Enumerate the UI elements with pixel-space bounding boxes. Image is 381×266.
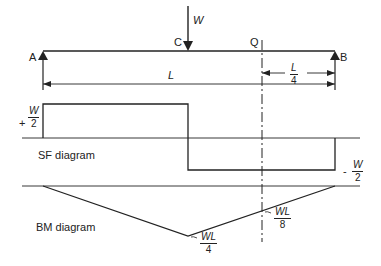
fraction-numerator: WL <box>200 232 217 244</box>
fraction-denominator: 4 <box>206 244 212 255</box>
sf-positive-sign: + <box>19 118 25 129</box>
bm-diagram-title: BM diagram <box>36 222 95 233</box>
section-q-label: Q <box>250 37 259 48</box>
support-a-label: A <box>29 52 36 63</box>
fraction-numerator: WL <box>274 207 291 219</box>
fraction-numerator: L <box>290 63 298 75</box>
fraction-denominator: 2 <box>31 118 37 129</box>
fraction-numerator: W <box>28 106 39 118</box>
sf-negative-value: W 2 <box>352 160 363 183</box>
fraction-denominator: 2 <box>355 172 361 183</box>
sf-negative-sign: - <box>343 166 347 177</box>
section-distance-fraction: L 4 <box>290 63 298 86</box>
bm-max-value: WL 4 <box>200 232 217 255</box>
support-b-label: B <box>340 52 347 63</box>
span-l-label: L <box>168 70 174 81</box>
fraction-denominator: 8 <box>280 219 286 230</box>
load-w-label: W <box>193 15 203 26</box>
fraction-denominator: 4 <box>291 75 297 86</box>
load-arrow-icon <box>183 6 193 51</box>
fraction-numerator: W <box>352 160 363 172</box>
load-point-c-label: C <box>174 37 182 48</box>
sf-diagram-title: SF diagram <box>38 150 95 161</box>
sf-positive-value: W 2 <box>28 106 39 129</box>
bm-section-value: WL 8 <box>274 207 291 230</box>
